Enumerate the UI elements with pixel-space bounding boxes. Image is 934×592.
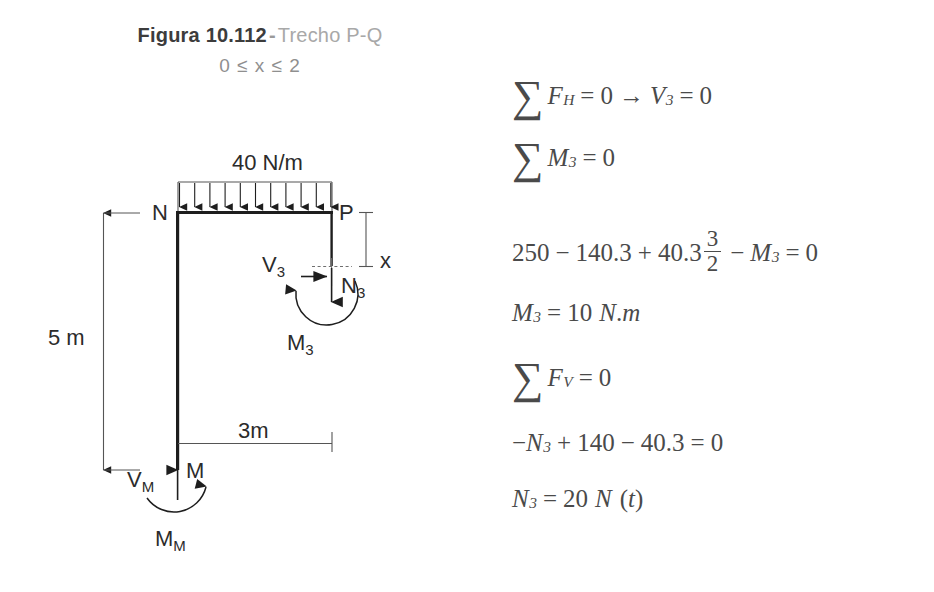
x-dimension: [359, 213, 373, 267]
math-variable: M: [547, 145, 568, 170]
math-operator: =: [779, 240, 805, 265]
summation-symbol: ∑: [512, 79, 543, 114]
frame-free-body-diagram: 40 N/m N P x 5 m 3m V3 N3 M3 VM M MM: [0, 0, 500, 592]
math-operator: −: [550, 240, 576, 265]
math-operator: +: [632, 240, 658, 265]
math-unit: N: [599, 300, 616, 325]
math-number: ): [635, 486, 643, 511]
height-dimension-label: 5 m: [48, 325, 85, 350]
math-number: 0: [600, 83, 613, 108]
equation-m3-result: M3=10N.m: [512, 300, 640, 325]
math-operator: −: [724, 240, 750, 265]
math-number: 140: [577, 430, 615, 455]
math-unit: N: [595, 486, 612, 511]
math-subscript: 3: [543, 439, 551, 455]
span-dimension-label: 3m: [238, 418, 269, 443]
math-number: 20: [563, 486, 588, 511]
node-label-m: M: [186, 458, 204, 483]
math-number: 0: [711, 430, 724, 455]
math-variable: N: [512, 486, 529, 511]
math-number: −: [512, 430, 526, 455]
summation-symbol: ∑: [512, 141, 543, 176]
math-variable: M: [750, 240, 771, 265]
math-variable: m: [622, 300, 640, 325]
math-number: 0: [599, 365, 612, 390]
equation-vertical-balance: −N3+140−40.3=0: [512, 430, 723, 455]
math-operator: =: [537, 486, 563, 511]
mm-label: MM: [155, 526, 186, 554]
math-operator: =: [674, 83, 700, 108]
math-subscript: 3: [529, 495, 537, 511]
math-subscript: H: [563, 92, 574, 108]
math-subscript: V: [563, 374, 572, 390]
load-arrows: [180, 183, 331, 207]
math-number: 140.3: [576, 240, 632, 265]
distributed-load-group: [178, 182, 332, 212]
math-number: 40.3: [658, 240, 702, 265]
mm-moment-arc: [147, 487, 206, 512]
math-variable: N: [526, 430, 543, 455]
math-subscript: 3: [569, 154, 577, 170]
fraction-numerator: 3: [704, 227, 722, 251]
v3-label: V3: [262, 252, 285, 280]
math-subscript: 3: [772, 249, 780, 265]
equation-sum-fv: ∑FV=0: [512, 360, 611, 395]
math-operator: =: [576, 145, 602, 170]
summation-symbol: ∑: [512, 361, 543, 396]
node-label-n: N: [152, 200, 168, 225]
math-variable: M: [512, 300, 533, 325]
math-variable: t: [628, 486, 635, 511]
math-operator: =: [573, 365, 599, 390]
x-dimension-label: x: [380, 248, 391, 273]
math-operator: +: [551, 430, 577, 455]
math-number: 0: [806, 240, 819, 265]
math-number: 0: [700, 83, 713, 108]
math-variable: F: [547, 365, 562, 390]
math-operator: =: [541, 300, 567, 325]
math-operator: →: [613, 83, 650, 108]
math-subscript: 3: [533, 309, 541, 325]
fraction: 32: [704, 227, 722, 276]
math-variable: V: [650, 83, 665, 108]
load-magnitude-label: 40 N/m: [232, 150, 303, 175]
math-number: 40.3: [641, 430, 685, 455]
math-number: 10: [567, 300, 592, 325]
equation-moment-balance: 250−140.3+40.332−M3=0: [512, 228, 818, 277]
math-variable: F: [547, 83, 562, 108]
height-dimension: [104, 213, 141, 470]
node-label-p: P: [339, 200, 354, 225]
math-operator: =: [685, 430, 711, 455]
math-number: 250: [512, 240, 550, 265]
math-operator: =: [574, 83, 600, 108]
equation-sum-m3: ∑M3=0: [512, 140, 615, 175]
equation-n3-result: N3=20N(t): [512, 486, 643, 511]
math-number: 0: [603, 145, 616, 170]
n3-label: N3: [341, 273, 365, 301]
fraction-denominator: 2: [704, 251, 722, 276]
m3-label: M3: [287, 330, 314, 358]
vm-label: VM: [127, 467, 154, 495]
math-operator: −: [615, 430, 641, 455]
math-number: (: [620, 486, 628, 511]
equation-sum-fh: ∑FH=0→V3=0: [512, 78, 712, 113]
math-subscript: 3: [666, 92, 674, 108]
